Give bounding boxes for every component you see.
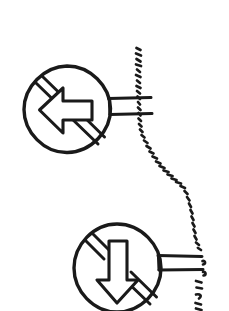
dash-mark [139,119,142,122]
dash-mark [137,70,140,73]
dash-mark [196,303,202,305]
dash-mark [194,230,196,234]
dash-mark [168,175,173,177]
dash-mark [139,124,142,127]
dash-mark [136,75,141,77]
dash-mark [137,48,141,50]
dash-mark [136,54,141,56]
dash-mark [193,223,195,227]
dash-mark [137,91,140,94]
dash-mark [198,248,201,250]
dash-mark [153,157,158,159]
dash-mark [197,288,203,289]
connector-line-bottom [110,114,152,115]
dash-mark [140,130,143,133]
dash-mark [144,141,148,144]
dash-mark [139,113,141,116]
dash-mark [189,204,191,208]
dash-mark [142,135,145,138]
dash-mark [160,166,165,168]
dash-mark [196,294,201,298]
dash-mark [196,281,202,283]
connector-line-top-2 [158,256,202,257]
dash-mark [192,217,194,221]
dash-mark [196,243,199,246]
connector-elbow [109,99,110,115]
dash-mark [138,102,140,105]
connector-line-top [109,98,152,99]
connector-elbow-2 [158,256,159,271]
dash-mark [137,59,141,62]
dash-mark [137,81,140,84]
dash-mark [147,146,151,149]
dash-mark [136,65,141,67]
sign-no-left-arrow[interactable] [24,66,152,153]
dash-mark [176,182,181,184]
dash-mark [203,272,206,276]
hand-drawn-diagram: Two crossed-out direction arrow signs jo… [0,0,229,311]
dash-mark [138,108,141,111]
sketch-canvas: Two crossed-out direction arrow signs jo… [0,0,229,311]
dash-mark [191,210,193,214]
dash-mark [164,171,169,173]
dash-mark [185,191,188,194]
dash-mark [195,236,197,240]
dash-mark [181,186,186,188]
sign-no-down-arrow[interactable] [74,224,203,311]
dash-mark [150,152,154,154]
dash-mark [156,162,161,164]
dash-mark [137,86,141,88]
dash-mark [203,261,206,265]
connector-line-bottom-2 [159,270,203,271]
dash-mark [172,179,177,181]
dash-mark [196,309,202,311]
dash-mark [187,197,190,201]
dash-mark [138,97,141,100]
